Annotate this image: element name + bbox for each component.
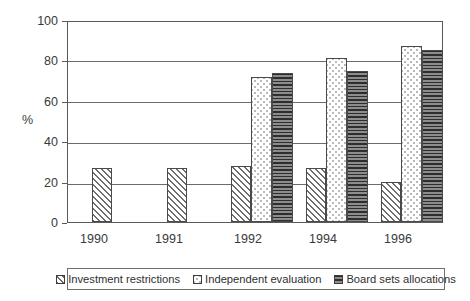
bar-1994-board-sets-allocations [347,71,368,223]
legend-item-independent-evaluation: Independent evaluation [193,273,321,285]
bar-1992-board-sets-allocations [272,73,293,223]
y-tick-mark-0 [62,223,67,224]
y-tick-label-60: 60 [0,96,58,108]
x-tick-label-1994: 1994 [285,232,361,246]
chart-legend: Investment restrictions Independent eval… [67,268,445,290]
bar-1996-investment-restrictions [381,182,401,222]
legend-swatch-dots-icon [193,275,202,284]
legend-label-board-sets-allocations: Board sets allocations [346,273,455,285]
bar-1994-investment-restrictions [306,168,326,223]
legend-swatch-hlines-icon [334,275,343,284]
y-tick-label-100: 100 [0,15,58,27]
plot-area [67,21,443,223]
bar-1991-investment-restrictions [167,168,187,223]
x-tick-label-1991: 1991 [131,232,207,246]
y-tick-label-0: 0 [0,217,58,229]
bar-1996-board-sets-allocations [422,50,443,222]
x-tick-label-1992: 1992 [210,232,286,246]
bar-1990-investment-restrictions [92,168,112,223]
bar-1992-independent-evaluation [251,77,272,222]
legend-item-board-sets-allocations: Board sets allocations [334,273,455,285]
x-tick-label-1990: 1990 [56,232,132,246]
y-axis-title: % [22,113,33,127]
legend-swatch-hatch-icon [56,275,65,284]
bar-1996-independent-evaluation [401,46,422,222]
y-tick-label-20: 20 [0,177,58,189]
y-tick-label-80: 80 [0,55,58,67]
gridline-80 [68,61,442,62]
legend-label-investment-restrictions: Investment restrictions [68,273,180,285]
y-tick-label-40: 40 [0,136,58,148]
x-tick-label-1996: 1996 [360,232,436,246]
bar-chart: 100 80 60 40 20 0 % 19 [0,0,470,301]
legend-item-investment-restrictions: Investment restrictions [56,273,180,285]
bar-1992-investment-restrictions [231,166,251,223]
bar-1994-independent-evaluation [326,58,347,222]
legend-label-independent-evaluation: Independent evaluation [205,273,321,285]
